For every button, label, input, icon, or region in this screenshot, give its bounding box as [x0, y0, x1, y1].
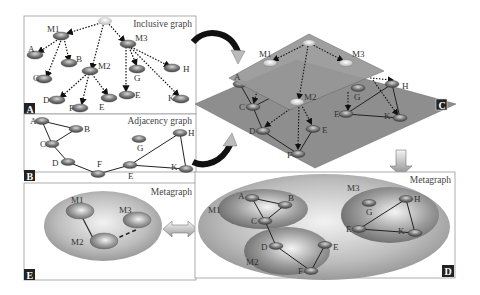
panel-d-title: Metagraph	[410, 175, 451, 185]
panel-e-title: Metagraph	[151, 187, 192, 197]
e-label-m1: M1	[71, 195, 84, 205]
c-label-g: G	[354, 92, 361, 102]
d-label-e: E	[346, 224, 352, 234]
meta-subgraph-m3	[341, 187, 439, 243]
label-e2: E	[99, 102, 105, 112]
c-label-c: C	[239, 102, 245, 112]
c-root-node	[303, 40, 315, 46]
meta-node-m1	[66, 203, 94, 219]
label-k: K	[168, 93, 175, 103]
label-d: D	[43, 95, 50, 105]
adj-node-b	[69, 126, 83, 133]
d-node-e	[352, 226, 366, 233]
panel-b-tag: B	[27, 171, 34, 182]
panel-b-title: Adjacency graph	[127, 116, 192, 126]
panel-a-title: Inclusive graph	[133, 19, 192, 29]
adj-label-b: B	[84, 124, 90, 134]
node-f	[72, 104, 88, 112]
d-node-a	[245, 195, 259, 202]
adj-node-h	[173, 130, 187, 137]
adj-label-h: H	[188, 128, 195, 138]
d-label-c: C	[251, 216, 257, 226]
label-e: E	[135, 90, 141, 100]
adj-node-e	[123, 162, 137, 169]
d-label-m3: M3	[347, 183, 360, 193]
c-node-m1	[263, 60, 277, 67]
d-node-e2	[318, 242, 332, 249]
d-label-h: H	[414, 194, 421, 204]
panel-d-metagraph: Metagraph M1 M2 M3 A B C D F E	[195, 172, 455, 280]
c-label-d: D	[249, 126, 256, 136]
adj-node-c	[45, 141, 59, 148]
node-e2	[101, 94, 117, 102]
node-m2	[82, 67, 98, 75]
c-label-m3: M3	[352, 49, 365, 59]
d-label-e2: E	[333, 242, 339, 252]
c-node-h	[385, 81, 399, 88]
curved-arrow-top-icon	[193, 33, 245, 64]
c-node-c	[246, 104, 260, 111]
c-node-e2	[306, 126, 320, 133]
d-label-a: A	[238, 191, 245, 201]
panel-b-adjacency-graph: Adjacency graph A B C D F E G H K B	[24, 114, 196, 182]
e-label-m2: M2	[71, 237, 84, 247]
adj-label-a: A	[30, 116, 37, 126]
d-label-f: F	[298, 266, 303, 276]
d-label-b: B	[288, 193, 294, 203]
label-h: H	[183, 64, 190, 74]
d-node-k	[408, 230, 422, 237]
label-c: C	[33, 73, 39, 83]
c-label-m2: M2	[304, 92, 317, 102]
adj-label-f: F	[97, 159, 102, 169]
d-label-m2: M2	[246, 257, 259, 267]
node-e	[119, 91, 135, 99]
c-node-g	[351, 85, 365, 92]
d-node-h	[399, 196, 413, 203]
e-label-m3: M3	[119, 205, 132, 215]
label-m1: M1	[47, 24, 60, 34]
d-label-m1: M1	[208, 205, 221, 215]
metagraph-diagram: Inclusive graph	[0, 0, 480, 295]
adj-label-k: K	[171, 162, 178, 172]
label-f: F	[69, 103, 74, 113]
panel-a-tag: A	[27, 104, 35, 115]
adj-label-d: D	[52, 158, 59, 168]
c-label-e: E	[334, 109, 340, 119]
node-k	[173, 95, 189, 103]
adj-label-g: G	[137, 143, 144, 153]
node-d	[49, 96, 65, 104]
c-node-k	[393, 115, 407, 122]
node-g	[129, 65, 145, 73]
adj-label-c: C	[40, 139, 46, 149]
adj-label-e: E	[128, 171, 134, 181]
adj-node-a	[35, 118, 49, 125]
d-label-k: K	[398, 226, 405, 236]
panel-d-tag: D	[445, 266, 452, 277]
c-label-e2: E	[322, 125, 328, 135]
c-node-m3	[339, 60, 353, 67]
panel-c-tag: C	[439, 100, 446, 111]
adj-node-d	[61, 159, 75, 166]
panel-e-tag: E	[27, 270, 34, 281]
c-label-k: K	[384, 111, 391, 121]
c-node-e	[339, 111, 353, 118]
adj-node-f	[91, 171, 105, 178]
c-label-a: A	[234, 72, 241, 82]
node-b	[61, 59, 77, 67]
adj-node-k	[179, 166, 193, 173]
label-b: B	[76, 54, 82, 64]
c-label-f: F	[287, 150, 292, 160]
d-label-g: G	[366, 207, 373, 217]
node-m3	[120, 40, 136, 48]
label-a: A	[28, 44, 35, 54]
c-node-m2	[290, 99, 304, 106]
meta-node-m2	[90, 233, 118, 249]
d-label-d: D	[261, 242, 268, 252]
meta-subgraph-m2	[244, 227, 330, 275]
adj-node-g	[132, 136, 146, 143]
curved-arrow-bottom-icon	[193, 133, 237, 164]
c-label-h: H	[402, 81, 409, 91]
c-node-d	[256, 128, 270, 135]
c-label-m1: M1	[259, 49, 272, 59]
d-node-c	[258, 218, 272, 225]
